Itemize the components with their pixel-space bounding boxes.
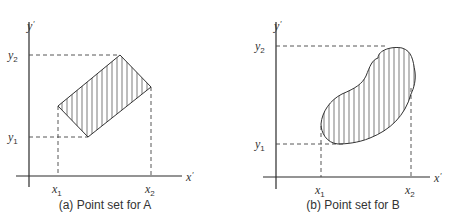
y-axis-label: y′	[273, 19, 282, 33]
x-axis-label: x′	[185, 170, 194, 184]
bounding-box-diagram: y′ x′ y2 y1 x1 x2 (a) Point set for A	[0, 0, 451, 219]
hatching	[62, 40, 147, 150]
panel-a: y′ x′ y2 y1 x1 x2 (a) Point set for A	[7, 19, 194, 212]
x2-label: x2	[404, 183, 415, 199]
y2-label: y2	[7, 48, 18, 64]
x-axis-label: x′	[433, 171, 442, 185]
y2-label: y2	[254, 39, 265, 55]
caption-a: (a) Point set for A	[59, 198, 152, 212]
panel-b: y′ x′ y2 y1 x1 x2 (b) Point set for B	[254, 19, 442, 212]
x1-label: x1	[51, 182, 62, 198]
y1-label: y1	[7, 130, 18, 146]
x2-label: x2	[144, 182, 155, 198]
x1-label: x1	[314, 183, 325, 199]
y-axis-label: y′	[26, 19, 35, 33]
blob-shape	[321, 47, 415, 144]
caption-b: (b) Point set for B	[306, 198, 399, 212]
y1-label: y1	[254, 137, 265, 153]
hatching	[324, 40, 414, 150]
